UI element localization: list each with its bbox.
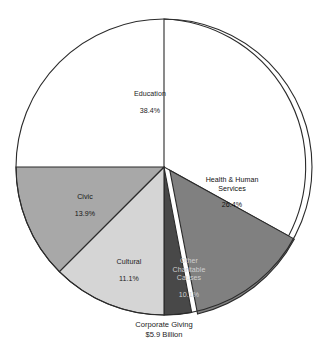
chart-caption-title: Corporate Giving	[0, 320, 328, 330]
pie-chart-graphic	[0, 0, 328, 361]
chart-caption: Corporate Giving $5.9 Billion	[0, 320, 328, 341]
chart-caption-amount: $5.9 Billion	[0, 330, 328, 340]
pie-chart-figure: Education 38.4% Health & Human Services …	[0, 0, 328, 361]
